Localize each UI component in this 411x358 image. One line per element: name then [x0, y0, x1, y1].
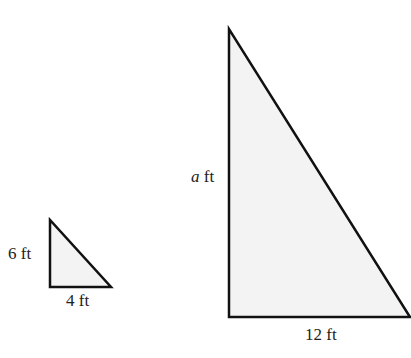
small-right-triangle [50, 220, 111, 287]
large-right-triangle [229, 29, 410, 317]
large-triangle-height-label: a ft [191, 167, 214, 186]
similar-triangles-diagram: 6 ft 4 ft a ft 12 ft [0, 0, 411, 358]
large-triangle-base-label: 12 ft [305, 325, 337, 344]
small-triangle-height-label: 6 ft [8, 244, 31, 263]
small-triangle-base-label: 4 ft [66, 291, 89, 310]
